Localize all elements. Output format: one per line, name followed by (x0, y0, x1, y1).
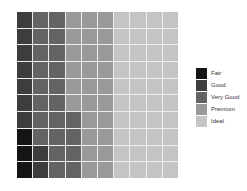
waffle-cell-premium (98, 12, 113, 28)
waffle-cell-ideal (147, 12, 162, 28)
waffle-cell-premium (82, 45, 97, 61)
waffle-cell-ideal (114, 62, 129, 78)
waffle-cell-premium (98, 146, 113, 162)
waffle-cell-ideal (147, 29, 162, 45)
legend-key-ideal (196, 116, 207, 127)
waffle-cell-ideal (147, 95, 162, 111)
waffle-cell-ideal (130, 79, 145, 95)
waffle-cell-good (17, 12, 32, 28)
waffle-cell-very-good (49, 79, 64, 95)
legend-key-good (196, 80, 207, 91)
waffle-cell-premium (66, 95, 81, 111)
waffle-cell-premium (98, 62, 113, 78)
waffle-cell-very-good (49, 62, 64, 78)
waffle-cell-premium (82, 112, 97, 128)
waffle-cell-ideal (114, 79, 129, 95)
waffle-cell-ideal (163, 95, 178, 111)
waffle-cell-very-good (33, 95, 48, 111)
waffle-cell-ideal (130, 112, 145, 128)
waffle-cell-premium (82, 12, 97, 28)
waffle-cell-ideal (163, 45, 178, 61)
waffle-cell-fair (17, 162, 32, 178)
waffle-cell-ideal (163, 146, 178, 162)
waffle-cell-ideal (130, 62, 145, 78)
waffle-cell-fair (17, 146, 32, 162)
waffle-cell-good (17, 62, 32, 78)
waffle-cell-premium (66, 29, 81, 45)
waffle-cell-ideal (147, 112, 162, 128)
waffle-cell-ideal (114, 146, 129, 162)
legend: Fair Good Very Good Premium Ideal (196, 67, 239, 127)
legend-item-fair: Fair (196, 67, 239, 79)
waffle-cell-ideal (147, 146, 162, 162)
waffle-cell-premium (98, 129, 113, 145)
waffle-cell-very-good (66, 146, 81, 162)
waffle-cell-very-good (33, 62, 48, 78)
legend-key-premium (196, 104, 207, 115)
waffle-cell-very-good (33, 45, 48, 61)
waffle-cell-very-good (49, 146, 64, 162)
waffle-cell-ideal (163, 112, 178, 128)
waffle-cell-premium (82, 95, 97, 111)
waffle-cell-premium (82, 146, 97, 162)
waffle-cell-very-good (49, 12, 64, 28)
waffle-cell-ideal (130, 146, 145, 162)
waffle-cell-very-good (33, 129, 48, 145)
waffle-cell-ideal (114, 129, 129, 145)
waffle-cell-premium (66, 62, 81, 78)
waffle-cell-fair (17, 129, 32, 145)
waffle-cell-premium (98, 162, 113, 178)
legend-key-fair (196, 68, 207, 79)
waffle-cell-premium (82, 29, 97, 45)
waffle-cell-good (33, 146, 48, 162)
waffle-cell-good (17, 112, 32, 128)
waffle-cell-ideal (147, 129, 162, 145)
waffle-cell-premium (66, 79, 81, 95)
legend-key-very-good (196, 92, 207, 103)
waffle-cell-ideal (147, 162, 162, 178)
legend-label: Good (211, 82, 226, 88)
waffle-cell-ideal (130, 129, 145, 145)
waffle-cell-very-good (33, 112, 48, 128)
waffle-cell-ideal (147, 45, 162, 61)
legend-label: Premium (211, 106, 235, 112)
waffle-cell-ideal (147, 79, 162, 95)
waffle-cell-very-good (33, 12, 48, 28)
legend-label: Fair (211, 70, 221, 76)
waffle-cell-ideal (130, 12, 145, 28)
waffle-cell-very-good (49, 112, 64, 128)
waffle-grid (17, 12, 178, 178)
waffle-cell-good (17, 29, 32, 45)
legend-label: Ideal (211, 118, 224, 124)
waffle-cell-premium (66, 45, 81, 61)
waffle-cell-very-good (49, 129, 64, 145)
legend-item-premium: Premium (196, 103, 239, 115)
waffle-cell-good (33, 162, 48, 178)
waffle-cell-ideal (114, 95, 129, 111)
waffle-cell-good (17, 79, 32, 95)
waffle-cell-very-good (66, 162, 81, 178)
waffle-cell-ideal (130, 162, 145, 178)
waffle-cell-ideal (147, 62, 162, 78)
waffle-cell-premium (98, 95, 113, 111)
waffle-cell-good (17, 95, 32, 111)
waffle-cell-very-good (33, 29, 48, 45)
legend-item-very-good: Very Good (196, 91, 239, 103)
legend-label: Very Good (211, 94, 239, 100)
waffle-cell-premium (98, 112, 113, 128)
waffle-cell-ideal (114, 12, 129, 28)
legend-item-ideal: Ideal (196, 115, 239, 127)
waffle-cell-very-good (49, 95, 64, 111)
waffle-cell-ideal (114, 112, 129, 128)
waffle-cell-ideal (114, 45, 129, 61)
waffle-cell-ideal (114, 162, 129, 178)
waffle-cell-very-good (66, 112, 81, 128)
waffle-cell-ideal (114, 29, 129, 45)
waffle-cell-very-good (49, 45, 64, 61)
waffle-cell-very-good (49, 29, 64, 45)
waffle-cell-premium (82, 129, 97, 145)
waffle-cell-ideal (163, 129, 178, 145)
waffle-cell-ideal (163, 12, 178, 28)
waffle-cell-premium (82, 79, 97, 95)
waffle-cell-very-good (66, 129, 81, 145)
